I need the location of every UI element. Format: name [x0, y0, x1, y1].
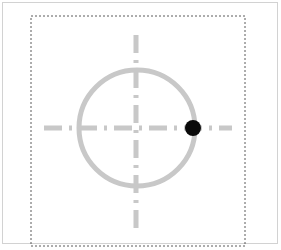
black-point-marker[interactable]	[185, 120, 201, 136]
drawing-canvas[interactable]	[0, 0, 281, 250]
canvas-background	[0, 0, 281, 250]
vector-drawing-surface[interactable]	[0, 0, 281, 250]
